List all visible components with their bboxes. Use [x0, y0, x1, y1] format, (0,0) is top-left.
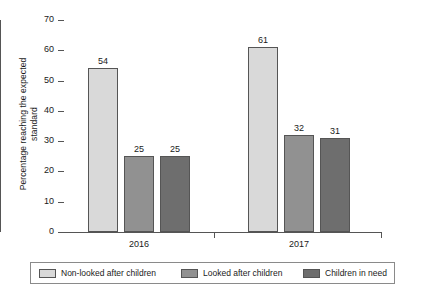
bar [88, 68, 118, 232]
legend-item: Non-looked after children [39, 268, 156, 278]
y-axis-tick-label: 50 [32, 76, 54, 85]
bar [284, 135, 314, 232]
legend-item: Looked after children [181, 268, 282, 278]
y-axis-tick-label: 40 [32, 106, 54, 115]
bar [160, 156, 190, 232]
legend-label: Looked after children [203, 268, 282, 278]
bar-chart-figure: Percentage reaching the expected standar… [0, 0, 421, 296]
y-axis-tick [58, 81, 64, 82]
bar-value-label: 31 [315, 126, 355, 136]
y-axis-tick-label: 0 [32, 227, 54, 236]
bar-value-label: 32 [279, 123, 319, 133]
bar-value-label: 25 [119, 144, 159, 154]
bar-value-label: 25 [155, 144, 195, 154]
legend-swatch [39, 269, 56, 278]
chart-legend: Non-looked after childrenLooked after ch… [30, 262, 395, 284]
y-axis-tick [58, 20, 64, 21]
y-axis-tick-label: 60 [32, 45, 54, 54]
y-axis-tick [58, 141, 64, 142]
y-axis-tick-label: 10 [32, 197, 54, 206]
y-axis-tick-label: 70 [32, 15, 54, 24]
bar [124, 156, 154, 232]
y-axis-tick-label: 30 [32, 136, 54, 145]
legend-label: Non-looked after children [61, 268, 156, 278]
x-axis-line [64, 232, 382, 233]
legend-swatch [303, 269, 320, 278]
y-axis-line [0, 20, 1, 232]
x-axis-tick [381, 233, 382, 238]
bar-value-label: 54 [83, 56, 123, 66]
x-axis-group-label: 2016 [109, 239, 169, 250]
y-axis-tick [58, 111, 64, 112]
bar-value-label: 61 [243, 35, 283, 45]
x-axis-tick [214, 233, 215, 238]
bar [248, 47, 278, 232]
y-axis-tick [58, 171, 64, 172]
y-axis-tick [58, 202, 64, 203]
y-axis-tick [58, 50, 64, 51]
legend-label: Children in need [325, 268, 387, 278]
bar [320, 138, 350, 232]
legend-item: Children in need [303, 268, 387, 278]
x-axis-group-label: 2017 [269, 239, 329, 250]
legend-swatch [181, 269, 198, 278]
y-axis-tick-label: 20 [32, 166, 54, 175]
